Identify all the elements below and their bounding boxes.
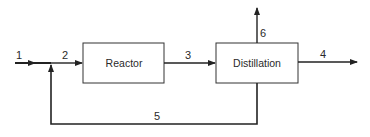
stream-label-2: 2	[62, 49, 68, 61]
stream-label-1: 1	[16, 49, 22, 61]
reactor-label: Reactor	[106, 57, 143, 69]
distillation-label: Distillation	[233, 57, 281, 69]
process-flow-diagram	[0, 0, 370, 137]
arrow-icon	[28, 60, 36, 66]
stream-label-6: 6	[260, 27, 266, 39]
stream-label-4: 4	[320, 48, 326, 60]
stream-label-5: 5	[154, 110, 160, 122]
stream-label-3: 3	[185, 49, 191, 61]
